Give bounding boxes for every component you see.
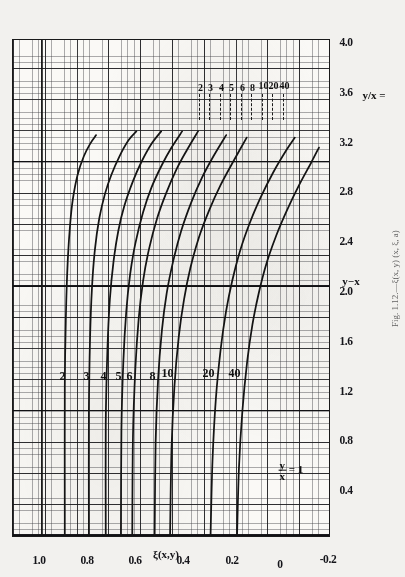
ratio-tick-8 <box>251 94 252 120</box>
x-tick-3.6: 3.6 <box>339 86 352 98</box>
ratio-tick-20 <box>272 94 273 120</box>
ratio-label-10: 10 <box>258 80 268 91</box>
curve-label-6: 6 <box>127 369 133 384</box>
ratio-tick-6 <box>241 94 242 120</box>
ratio-label-3: 3 <box>208 82 213 93</box>
ratio-label-8: 8 <box>250 82 255 93</box>
curve-6 <box>132 131 198 536</box>
curve-label-10: 10 <box>162 366 174 381</box>
x-tick-2.8: 2.8 <box>339 186 352 198</box>
ratio-label-6: 6 <box>240 82 245 93</box>
x-axis-title: y−x <box>342 275 359 287</box>
y-axis-title: ξ(x,y) <box>153 548 179 560</box>
ratio-denominator: x <box>279 471 287 481</box>
curve-label-20: 20 <box>202 366 214 381</box>
y-tick-0: 0 <box>277 558 282 570</box>
y-tick-0.8: 0.8 <box>80 554 93 566</box>
curve-family-label: y x = 1 <box>279 460 304 482</box>
ratio-tick-5 <box>230 94 231 120</box>
curve-label-5: 5 <box>115 369 121 384</box>
y-tick--0.2: -0.2 <box>320 553 337 565</box>
ratio-tick-10 <box>262 94 263 120</box>
ratio-tick-2 <box>199 94 200 120</box>
x-tick-1.6: 1.6 <box>339 335 352 347</box>
curve-label-3: 3 <box>83 369 89 384</box>
curve-5 <box>121 131 182 536</box>
x-tick-0.8: 0.8 <box>339 435 352 447</box>
curve-2 <box>65 135 96 536</box>
curve-label-2: 2 <box>59 369 65 384</box>
y-tick-0.6: 0.6 <box>129 554 142 566</box>
ratio-axis-title: y/x = <box>362 89 385 101</box>
x-tick-1.2: 1.2 <box>339 385 352 397</box>
ratio-label-20: 20 <box>269 80 279 91</box>
ratio-tick-3 <box>209 94 210 120</box>
figure-caption: Fig. 1.12.—ξ(x, y) (x, ξ, a) <box>390 230 400 327</box>
curve-label-4: 4 <box>100 369 106 384</box>
ratio-tick-40 <box>283 94 284 120</box>
y-tick-0.2: 0.2 <box>225 554 238 566</box>
x-tick-2.4: 2.4 <box>339 236 352 248</box>
curve-label-40: 40 <box>229 366 241 381</box>
ratio-label-40: 40 <box>279 80 289 91</box>
x-tick-4.0: 4.0 <box>339 36 352 48</box>
ratio-label-2: 2 <box>198 82 203 93</box>
y-tick-1.0: 1.0 <box>32 554 45 566</box>
curve-label-8: 8 <box>149 369 155 384</box>
curve-10 <box>170 138 247 536</box>
figure-page: 0.40.81.21.62.02.42.83.23.64.0 1.00.80.6… <box>0 0 405 577</box>
rotated-figure: 0.40.81.21.62.02.42.83.23.64.0 1.00.80.6… <box>0 0 405 577</box>
ratio-tick-4 <box>220 94 221 120</box>
x-tick-0.4: 0.4 <box>339 485 352 497</box>
ratio-fraction: y x <box>279 460 287 482</box>
ratio-label-5: 5 <box>229 82 234 93</box>
ratio-equals-one: = 1 <box>289 463 304 475</box>
x-tick-3.2: 3.2 <box>339 136 352 148</box>
ratio-label-4: 4 <box>219 82 224 93</box>
